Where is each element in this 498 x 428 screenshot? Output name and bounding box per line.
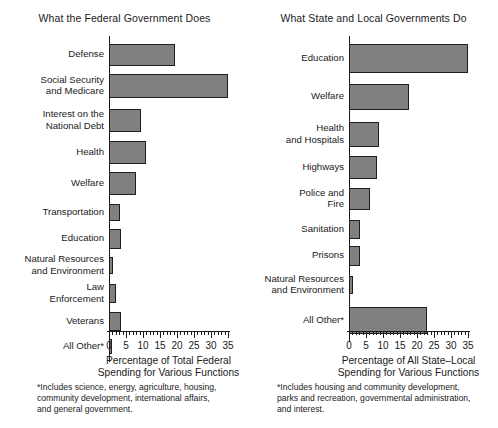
bar-category-label: Social Security and Medicare [4,74,104,96]
bar-category-label: Police and Fire [244,187,344,209]
axis-tick-minor [369,331,370,335]
panel-state-local-footnote: *Includes housing and community developm… [277,382,492,414]
axis-tick-minor [352,331,353,335]
axis-tick-major [126,331,127,338]
bar-category-label: Prisons [244,249,344,260]
bar [109,204,120,221]
panel-state-local-x-axis [347,331,470,339]
bar [349,188,370,210]
bar-category-label: Law Enforcement [4,281,104,303]
bar-category-label: Education [244,52,344,63]
bar [109,284,116,303]
axis-tick-minor [397,331,398,335]
axis-tick-major [468,331,469,338]
axis-tick-major [160,331,161,338]
axis-tick-minor [407,331,408,335]
bar-category-label: Welfare [4,177,104,188]
axis-tick-minor [376,331,377,335]
axis-tick-major [211,331,212,338]
axis-tick-minor [424,331,425,335]
axis-tick-minor [170,331,171,335]
axis-tick-minor [201,331,202,335]
axis-tick-minor [465,331,466,335]
bar-category-label: Highways [244,161,344,172]
axis-tick-major [400,331,401,338]
axis-tick-minor [204,331,205,335]
axis-tick-minor [386,331,387,335]
bar [109,312,121,331]
panel-state-local-axis-title: Percentage of All State–Local Spending f… [309,355,498,380]
axis-tick-minor [180,331,181,335]
bar [349,246,360,266]
bar [109,257,113,274]
bar-category-label: Natural Resources and Environment [244,273,344,295]
axis-tick-minor [163,331,164,335]
bar-category-label: All Other* [4,340,104,351]
bar [109,141,146,164]
axis-tick-label: 35 [456,340,480,351]
axis-tick-minor [410,331,411,335]
axis-tick-minor [458,331,459,335]
axis-tick-minor [187,331,188,335]
axis-tick-minor [225,331,226,335]
axis-tick-minor [167,331,168,335]
bar [349,276,353,294]
axis-tick-minor [123,331,124,335]
axis-tick-minor [454,331,455,335]
axis-tick-major [366,331,367,338]
axis-tick-minor [363,331,364,335]
axis-tick-minor [221,331,222,335]
axis-tick-minor [441,331,442,335]
axis-tick-minor [427,331,428,335]
axis-tick-major [177,331,178,338]
bar [349,44,468,73]
axis-tick-minor [133,331,134,335]
axis-tick-minor [119,331,120,335]
bar [349,307,427,334]
panel-federal-footnote: *Includes science, energy, agriculture, … [37,382,252,414]
bar-category-label: Transportation [4,206,104,217]
axis-tick-minor [191,331,192,335]
axis-tick-minor [390,331,391,335]
axis-tick-minor [150,331,151,335]
panel-state-local-plot: EducationWelfareHealth and HospitalsHigh… [249,36,498,326]
bar-category-label: All Other* [244,314,344,325]
panel-federal-x-axis [107,331,230,339]
axis-tick-minor [461,331,462,335]
axis-tick-minor [112,331,113,335]
axis-tick-minor [448,331,449,335]
axis-tick-minor [437,331,438,335]
axis-tick-minor [116,331,117,335]
axis-tick-major [349,331,350,338]
bar-category-label: Health [4,146,104,157]
bar-category-label: Education [4,232,104,243]
axis-tick-major [383,331,384,338]
axis-tick-minor [214,331,215,335]
axis-tick-minor [380,331,381,335]
axis-tick-minor [359,331,360,335]
bar-category-label: Interest on the National Debt [4,108,104,130]
axis-tick-minor [174,331,175,335]
axis-tick-minor [414,331,415,335]
axis-tick-minor [444,331,445,335]
dual-bar-chart-figure: What the Federal Government Does Defense… [0,0,498,428]
axis-tick-minor [420,331,421,335]
axis-tick-minor [184,331,185,335]
bar [349,156,377,179]
axis-tick-minor [431,331,432,335]
bar [109,229,121,249]
bar [109,74,228,98]
axis-tick-minor [153,331,154,335]
bar-category-label: Veterans [4,315,104,326]
axis-tick-major [109,331,110,338]
axis-tick-minor [140,331,141,335]
axis-tick-major [194,331,195,338]
bar [109,109,141,132]
axis-tick-minor [157,331,158,335]
axis-tick-minor [393,331,394,335]
axis-tick-minor [197,331,198,335]
panel-federal-axis-title: Percentage of Total Federal Spending for… [69,355,268,380]
bar [349,84,409,110]
axis-tick-minor [136,331,137,335]
axis-tick-minor [373,331,374,335]
